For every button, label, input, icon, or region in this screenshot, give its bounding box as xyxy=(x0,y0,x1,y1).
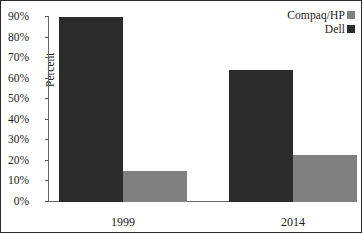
y-axis-tick-label: 10% xyxy=(8,173,29,187)
bar-dell-2014[interactable] xyxy=(229,70,293,202)
x-axis-tick-label: 2014 xyxy=(229,214,357,230)
y-axis-ticks: 0%10%20%30%40%50%60%70%80%90% xyxy=(1,1,49,234)
plot-area: 19992014 xyxy=(49,11,356,202)
bar-compaq-hp-1999[interactable] xyxy=(123,171,187,202)
y-axis-tick-label: 70% xyxy=(8,50,29,64)
y-axis-tick-label: 50% xyxy=(8,91,29,105)
x-axis-tick-label: 1999 xyxy=(59,214,187,230)
bar-compaq-hp-2014[interactable] xyxy=(293,155,357,202)
y-axis-tick-label: 80% xyxy=(8,30,29,44)
y-axis-tick-label: 60% xyxy=(8,71,29,85)
y-axis-tick-label: 30% xyxy=(8,132,29,146)
y-axis-tick-label: 90% xyxy=(8,9,29,23)
bar-group xyxy=(229,11,359,202)
y-axis-tick-label: 0% xyxy=(14,194,29,208)
y-axis-tick-label: 20% xyxy=(8,153,29,167)
y-axis-tick-label: 40% xyxy=(8,112,29,126)
bar-dell-1999[interactable] xyxy=(59,17,123,202)
chart-frame: Compaq/HP Dell Percent 0%10%20%30%40%50%… xyxy=(0,0,362,233)
bar-group xyxy=(59,11,189,202)
